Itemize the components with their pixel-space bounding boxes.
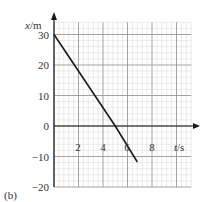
y-tick-10: 10 bbox=[38, 90, 50, 102]
y-tick-30: 30 bbox=[38, 29, 50, 41]
y-axis-arrow-icon bbox=[51, 12, 57, 20]
x-tick-8: 8 bbox=[149, 141, 155, 153]
y-tick-20: 20 bbox=[38, 59, 50, 71]
y-tick-neg20: −20 bbox=[32, 181, 50, 193]
x-tick-2: 2 bbox=[75, 141, 81, 153]
x-tick-labels: 2 4 6 8 bbox=[75, 141, 155, 153]
panel-label: (b) bbox=[4, 189, 17, 202]
y-tick-0: 0 bbox=[44, 120, 50, 132]
x-tick-4: 4 bbox=[100, 141, 106, 153]
x-axis-label: t/s bbox=[174, 141, 184, 153]
position-time-chart: x/m t/s (b) 30 20 10 0 −10 −20 2 4 6 8 bbox=[0, 0, 203, 202]
x-tick-6: 6 bbox=[124, 141, 130, 153]
y-tick-neg10: −10 bbox=[32, 151, 50, 163]
minor-grid bbox=[54, 22, 191, 187]
x-axis-arrow-icon bbox=[193, 123, 200, 129]
y-tick-labels: 30 20 10 0 −10 −20 bbox=[32, 29, 50, 193]
